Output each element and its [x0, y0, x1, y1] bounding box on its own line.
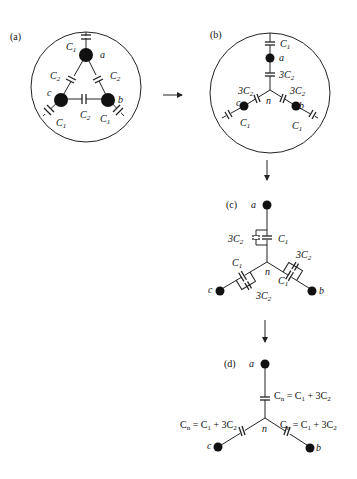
capacitor-c1-a — [81, 35, 91, 39]
label-c1-top: C1 — [66, 41, 76, 54]
label-c2-bottom: C2 — [80, 109, 91, 122]
svg-text:3C2: 3C2 — [255, 290, 272, 303]
svg-text:C1: C1 — [280, 38, 290, 51]
capacitor-c1-b-left — [225, 110, 232, 119]
node-a — [263, 201, 272, 210]
capacitor-c1-b-top — [265, 42, 275, 45]
svg-text:b: b — [319, 285, 324, 296]
node-a — [266, 54, 275, 63]
node-c-label: c — [236, 97, 241, 108]
node-b-label: b — [118, 94, 123, 105]
node-b — [101, 93, 115, 107]
equation-cn-a: Cn = C1 + 3C2 — [274, 390, 331, 403]
panel-b: (b) a c b n C1 3C2 3C2 3C2 C1 C1 — [210, 29, 330, 153]
node-a-label: a — [279, 52, 284, 63]
node-c — [214, 443, 223, 452]
capacitor-c2-ab — [93, 75, 103, 83]
capacitor-3c2-b-top — [265, 73, 275, 76]
parallel-capacitor-a-n — [252, 230, 273, 245]
svg-text:3C2: 3C2 — [278, 69, 295, 82]
svg-text:a: a — [251, 199, 256, 210]
node-c — [240, 102, 249, 111]
svg-text:c: c — [207, 440, 212, 451]
node-a — [261, 360, 270, 369]
node-c — [216, 287, 225, 296]
svg-text:b: b — [316, 442, 321, 453]
label-c2-right: C2 — [110, 70, 121, 83]
equation-cn-b: Cn = C1 + 3C2 — [280, 419, 337, 432]
node-b-label: b — [299, 100, 304, 111]
node-c — [54, 93, 68, 107]
capacitor-c1-b-right — [309, 110, 316, 119]
label-c1-left: C1 — [56, 117, 66, 130]
svg-text:c: c — [208, 284, 213, 295]
svg-text:a: a — [249, 358, 254, 369]
node-c-label: c — [47, 87, 52, 98]
label-c2-left: C2 — [50, 70, 61, 83]
svg-text:3C2: 3C2 — [289, 85, 306, 98]
node-b — [308, 287, 317, 296]
panel-c: (c) a c b n 3C2 C1 — [208, 199, 324, 303]
svg-text:C1: C1 — [240, 117, 250, 130]
panel-b-label: (b) — [210, 29, 222, 41]
panel-a-label: (a) — [10, 31, 21, 43]
svg-text:3C2: 3C2 — [227, 233, 244, 246]
svg-text:C1: C1 — [292, 120, 302, 133]
node-n-label: n — [266, 95, 271, 106]
node-a-label: a — [100, 49, 105, 60]
node-a — [79, 48, 93, 62]
capacitor-c2-bc — [82, 94, 86, 104]
capacitor-cn-a — [260, 397, 270, 400]
equation-cn-c: Cn = C1 + 3C2 — [180, 419, 237, 432]
svg-text:n: n — [262, 423, 267, 434]
panel-d-label: (d) — [224, 358, 236, 370]
panel-c-label: (c) — [226, 199, 237, 211]
svg-text:C1: C1 — [232, 257, 242, 270]
capacitor-cn-c — [239, 426, 245, 436]
capacitor-3c2-b-right — [280, 94, 286, 103]
label-c1-right: C1 — [100, 113, 110, 126]
svg-text:3C2: 3C2 — [295, 249, 312, 262]
svg-text:n: n — [265, 266, 270, 277]
panel-a: (a) — [10, 31, 141, 142]
capacitor-3c2-b-left — [254, 94, 260, 103]
panel-d: (d) a c b n Cn = C1 + 3C2 Cn = C1 + 3C2 … — [180, 358, 337, 453]
svg-text:C1: C1 — [278, 233, 288, 246]
node-b — [306, 444, 315, 453]
capacitance-transformation-diagram: (a) — [0, 0, 357, 479]
